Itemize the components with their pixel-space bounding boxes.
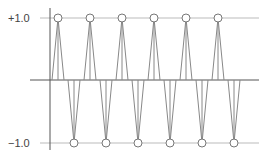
- peak-left-edge: [84, 18, 90, 80]
- peak-right-edge: [74, 80, 80, 143]
- peak-right-edge: [138, 80, 144, 143]
- peak-marker: [134, 139, 142, 147]
- peak-right-edge: [58, 18, 64, 80]
- peak-left-edge: [196, 80, 202, 143]
- peak-right-edge: [90, 18, 96, 80]
- peak-left-edge: [132, 80, 138, 143]
- peak-marker: [54, 14, 62, 22]
- label-minus-one: −1.0: [8, 137, 30, 149]
- peak-marker: [150, 14, 158, 22]
- peak-right-edge: [106, 80, 112, 143]
- peak-right-edge: [170, 80, 176, 143]
- peak-left-edge: [180, 18, 186, 80]
- peak-right-edge: [234, 80, 240, 143]
- peak-marker: [102, 139, 110, 147]
- peak-marker: [230, 139, 238, 147]
- peak-marker: [214, 14, 222, 22]
- peak-left-edge: [100, 80, 106, 143]
- peak-marker: [198, 139, 206, 147]
- peak-marker: [118, 14, 126, 22]
- peak-right-edge: [122, 18, 128, 80]
- peak-marker: [86, 14, 94, 22]
- label-plus-one: +1.0: [8, 12, 30, 24]
- peak-right-edge: [154, 18, 160, 80]
- peak-left-edge: [148, 18, 154, 80]
- peak-left-edge: [212, 18, 218, 80]
- waveform-diagram: [0, 0, 271, 156]
- peak-left-edge: [68, 80, 74, 143]
- peak-marker: [182, 14, 190, 22]
- peak-marker: [70, 139, 78, 147]
- peak-marker: [166, 139, 174, 147]
- peak-left-edge: [228, 80, 234, 143]
- peak-left-edge: [52, 18, 58, 80]
- peak-right-edge: [218, 18, 224, 80]
- peak-right-edge: [202, 80, 208, 143]
- peak-left-edge: [164, 80, 170, 143]
- peak-left-edge: [116, 18, 122, 80]
- peak-right-edge: [186, 18, 192, 80]
